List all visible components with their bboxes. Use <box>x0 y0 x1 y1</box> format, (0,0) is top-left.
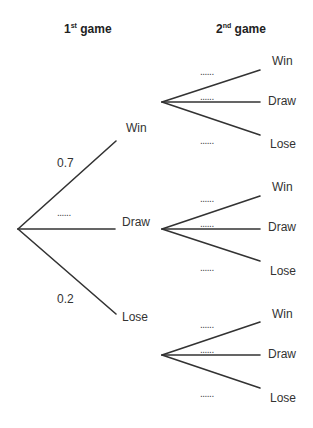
prob-first-draw: ...... <box>57 208 71 218</box>
outcome-lose-lose: Lose <box>270 392 296 404</box>
prob-draw-lose: ...... <box>200 263 214 273</box>
prob-first-lose: 0.2 <box>57 293 74 305</box>
branch-draw-lose <box>162 229 260 261</box>
outcome-draw-lose: Lose <box>270 265 296 277</box>
outcome-lose-draw: Draw <box>268 348 296 360</box>
outcome-win-draw: Draw <box>268 95 296 107</box>
prob-first-win: 0.7 <box>57 157 74 169</box>
prob-lose-draw: ...... <box>200 345 214 355</box>
header-second-game: 2nd game <box>216 23 266 35</box>
header-second-sup: nd <box>223 22 232 29</box>
header-second-text: game <box>231 22 266 36</box>
header-second-num: 2 <box>216 22 223 36</box>
header-first-text: game <box>77 22 112 36</box>
prob-lose-win: ...... <box>200 320 214 330</box>
tree-diagram-lines <box>0 0 313 428</box>
outcome-first-draw: Draw <box>122 216 150 228</box>
outcome-draw-draw: Draw <box>268 221 296 233</box>
prob-draw-win: ...... <box>200 194 214 204</box>
outcome-draw-win: Win <box>272 181 293 193</box>
outcome-win-lose: Lose <box>270 138 296 150</box>
outcome-first-win: Win <box>126 122 147 134</box>
prob-lose-lose: ...... <box>200 389 214 399</box>
prob-win-win: ...... <box>200 67 214 77</box>
branch-lose-lose <box>162 355 260 388</box>
branch-win-lose <box>162 102 260 135</box>
prob-win-lose: ...... <box>200 136 214 146</box>
outcome-win-win: Win <box>272 55 293 67</box>
header-first-num: 1 <box>64 22 71 36</box>
prob-win-draw: ...... <box>200 92 214 102</box>
prob-draw-draw: ...... <box>200 219 214 229</box>
outcome-first-lose: Lose <box>122 311 148 323</box>
outcome-lose-win: Win <box>272 308 293 320</box>
header-first-game: 1st game <box>64 23 112 35</box>
